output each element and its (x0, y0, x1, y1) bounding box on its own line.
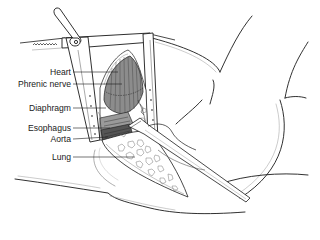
label-diaphragm: Diaphragm (29, 103, 71, 113)
label-aorta: Aorta (50, 134, 71, 144)
label-esophagus: Esophagus (28, 123, 71, 133)
label-lung: Lung (52, 152, 71, 162)
label-phrenic-nerve: Phrenic nerve (18, 79, 71, 89)
label-heart: Heart (50, 67, 71, 77)
